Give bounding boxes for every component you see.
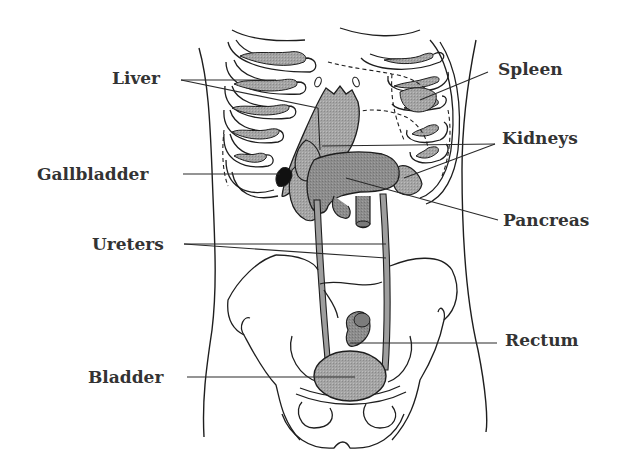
bladder-organ (314, 351, 386, 401)
label-rectum: Rectum (505, 332, 579, 349)
rectum-organ (346, 312, 370, 347)
label-ureters: Ureters (92, 236, 164, 253)
label-liver: Liver (112, 70, 160, 87)
sternum-marks (313, 76, 360, 87)
label-pancreas: Pancreas (503, 212, 589, 229)
label-spleen: Spleen (498, 61, 563, 78)
label-gallbladder: Gallbladder (37, 166, 148, 183)
label-kidneys: Kidneys (502, 130, 578, 147)
label-bladder: Bladder (88, 369, 163, 386)
